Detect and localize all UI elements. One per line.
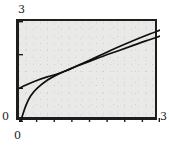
x-axis-tick-marks: [20, 118, 160, 122]
data-curve-upper: [19, 30, 160, 88]
x-axis-max-label: 3: [160, 111, 167, 122]
figure-canvas: 3 0 0 3: [0, 0, 169, 146]
y-axis-min-label: 0: [2, 111, 9, 122]
y-axis-max-label: 3: [18, 4, 25, 15]
y-axis-tick-marks: [19, 22, 23, 122]
plot-frame: [16, 19, 157, 120]
plot-area: [19, 21, 160, 122]
x-axis-min-label: 0: [14, 130, 21, 141]
